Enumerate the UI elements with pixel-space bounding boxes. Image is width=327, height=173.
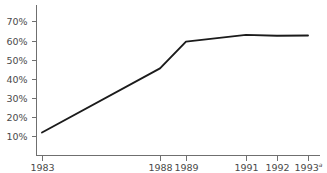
x-axis-label-group: 198319881989199119921993a [30, 161, 322, 173]
x-axis-tick-label: 1992 [265, 162, 289, 173]
x-axis-tick-footnote-superscript: a [319, 161, 323, 168]
y-axis-tick-label: 60% [6, 36, 27, 47]
x-axis-tick-label: 1989 [174, 162, 198, 173]
data-series-line [42, 35, 308, 133]
y-axis-tick-label: 50% [6, 55, 27, 66]
x-axis-tick-label: 1988 [148, 162, 172, 173]
x-axis-tick-label: 1983 [30, 162, 54, 173]
y-axis-label-group: 10%20%30%40%50%60%70% [6, 16, 27, 142]
y-axis-tick-label: 70% [6, 16, 27, 27]
y-axis-tick-group [32, 22, 37, 137]
y-axis-tick-label: 10% [6, 131, 27, 142]
chart-canvas: 10%20%30%40%50%60%70% 198319881989199119… [0, 0, 327, 173]
y-axis-tick-label: 40% [6, 74, 27, 85]
y-axis-tick-label: 20% [6, 112, 27, 123]
x-axis-tick-group [43, 156, 309, 161]
x-axis-tick-label: 1991 [234, 162, 258, 173]
x-axis-tick-label: 1993a [295, 161, 323, 173]
y-axis-tick-label: 30% [6, 93, 27, 104]
line-chart: 10%20%30%40%50%60%70% 198319881989199119… [0, 0, 327, 173]
